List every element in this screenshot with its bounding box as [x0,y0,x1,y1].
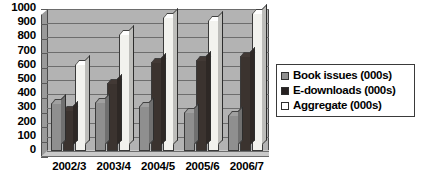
y-tick-label: 600 [17,59,36,71]
y-axis-tick-mark [41,98,48,99]
y-axis-tick-mark [41,39,48,40]
bars-layer [47,9,269,151]
y-axis-tick-mark [41,24,48,25]
y-tick-label: 400 [17,87,36,99]
bar-group [180,9,224,151]
bar-group [91,9,135,151]
legend-label-book-issues: Book issues (000s) [293,70,392,82]
y-axis-tick-mark [41,9,48,10]
legend-swatch-e-downloads-icon [281,87,289,95]
y-tick-label: 700 [17,45,36,57]
y-tick-label: 300 [17,102,36,114]
legend-item-e-downloads[interactable]: E-downloads (000s) [281,83,410,98]
x-axis-tick-labels: 2002/32003/42004/52005/62006/7 [41,160,269,180]
plot-area [41,9,269,157]
bar-book-issues [95,102,106,151]
y-axis-tick-mark [41,83,48,84]
legend-swatch-book-issues-icon [281,72,289,80]
bar-book-issues [51,103,62,151]
y-tick-label: 100 [17,130,36,142]
x-tick-label: 2004/5 [141,160,175,172]
x-tick-label: 2006/7 [230,160,264,172]
y-axis-tick-mark [41,53,48,54]
y-axis-tick-mark [41,157,48,158]
y-axis-tick-mark [41,127,48,128]
y-tick-label: 200 [17,116,36,128]
y-tick-label: 900 [17,16,36,28]
y-axis-tick-labels: 10009008007006005004003002001000 [0,8,38,156]
legend-item-book-issues[interactable]: Book issues (000s) [281,68,410,83]
legend-swatch-aggregate-icon [281,102,289,110]
gridline [47,151,269,152]
legend-label-e-downloads: E-downloads (000s) [293,85,396,97]
x-tick-label: 2005/6 [185,160,219,172]
y-axis-tick-mark [41,68,48,69]
bar-group [225,9,269,151]
y-tick-label: 1000 [11,2,36,14]
y-axis-tick-mark [41,142,48,143]
y-tick-label: 0 [30,144,36,156]
y-tick-label: 500 [17,73,36,85]
legend-label-aggregate: Aggregate (000s) [293,100,382,112]
legend-item-aggregate[interactable]: Aggregate (000s) [281,98,410,113]
bar-group [136,9,180,151]
bar-chart-figure: 10009008007006005004003002001000 2002/32… [0,0,423,188]
bar-group [47,9,91,151]
bar-book-issues [228,115,239,151]
bar-book-issues [184,112,195,151]
x-tick-label: 2003/4 [97,160,131,172]
bar-book-issues [139,106,150,151]
chart-legend: Book issues (000s) E-downloads (000s) Ag… [276,64,415,117]
y-tick-label: 800 [17,31,36,43]
x-tick-label: 2002/3 [52,160,86,172]
y-axis-tick-mark [41,113,48,114]
